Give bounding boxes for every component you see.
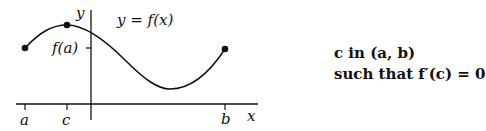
xtick-label-c: c (62, 113, 70, 128)
function-label: y = f(x) (117, 13, 173, 28)
caption-line-1: c in (a, b) (334, 46, 415, 61)
caption-line-2: such that f′(c) = 0 (334, 67, 486, 82)
xtick-label-b: b (221, 112, 231, 127)
point-a (22, 45, 29, 52)
point-b (222, 46, 229, 53)
ytick-label-fa: f(a) (52, 41, 78, 56)
xtick-label-a: a (20, 113, 29, 128)
y-axis-label: y (76, 6, 84, 21)
x-axis-label: x (247, 109, 255, 124)
function-curve (25, 25, 225, 89)
point-c (64, 22, 71, 29)
